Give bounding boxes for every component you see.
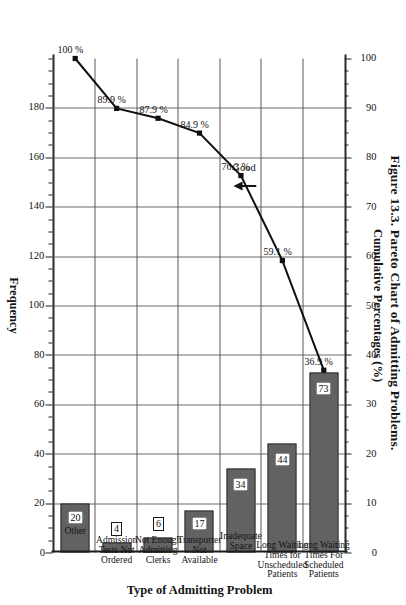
gridline-vertical [54, 256, 344, 257]
axis-tick-minor [48, 169, 52, 170]
category-axis-title: Type of Admitting Problem [99, 583, 299, 598]
gridline-horizontal [302, 58, 303, 552]
good-label: Good [232, 161, 255, 172]
gridline-vertical [54, 157, 344, 158]
axis-tick-minor [48, 342, 52, 343]
bar-value-label: 20 [67, 510, 83, 524]
axis-tick-minor [48, 466, 52, 467]
axis-tick-minor [48, 58, 52, 59]
axis-tick-label: 20 [34, 497, 45, 508]
axis-tick-major [45, 305, 52, 306]
axis-tick-label: 0 [371, 547, 376, 558]
pareto-plot-area: 734434176420 36.9 %59.1 %76.3 %84.9 %87.… [54, 58, 344, 552]
cumulative-value-label: 89.9 % [97, 94, 125, 104]
axis-tick-label: 100 [360, 53, 376, 64]
figure-caption: Figure 13.3. Pareto Chart of Admitting P… [386, 0, 402, 605]
axis-tick-minor [48, 429, 52, 430]
axis-tick-minor [48, 231, 52, 232]
frequency-axis-title: Frequency [5, 58, 20, 552]
gridline-vertical [54, 107, 344, 108]
axis-tick-minor [48, 280, 52, 281]
axis-tick-label: 40 [34, 448, 45, 459]
right-arrow-icon [232, 180, 256, 191]
axis-tick-label: 70 [366, 201, 377, 212]
gridline-vertical [54, 206, 344, 207]
figure-canvas: Figure 13.3. Pareto Chart of Admitting P… [0, 0, 406, 605]
axis-tick-minor [48, 379, 52, 380]
plot-border-bottom [52, 54, 54, 552]
axis-tick-major [45, 503, 52, 504]
plot-border-top [344, 54, 346, 552]
axis-tick-minor [48, 416, 52, 417]
axis-tick-label: 140 [28, 201, 44, 212]
axis-tick-major [45, 354, 52, 355]
axis-tick-minor [48, 391, 52, 392]
axis-tick-label: 50 [366, 300, 377, 311]
axis-tick-label: 180 [28, 102, 44, 113]
axis-tick-label: 120 [28, 250, 44, 261]
axis-tick-minor [48, 330, 52, 331]
bar-value-label: 17 [191, 516, 207, 530]
axis-tick-label: 80 [34, 349, 45, 360]
axis-tick-major [45, 206, 52, 207]
axis-tick-label: 20 [366, 448, 377, 459]
axis-tick-minor [48, 367, 52, 368]
category-label-line: Other [40, 526, 110, 536]
gridline-horizontal [219, 58, 220, 552]
cumulative-value-label: 84.9 % [180, 119, 208, 129]
axis-tick-minor [48, 268, 52, 269]
axis-tick-minor [48, 70, 52, 71]
category-label-line: Times for [247, 550, 317, 560]
gridline-horizontal [136, 58, 137, 552]
axis-tick-minor [48, 182, 52, 183]
bar [309, 372, 338, 552]
axis-tick-minor [48, 219, 52, 220]
cumulative-value-label: 36.9 % [304, 356, 332, 366]
category-label: Other [40, 526, 110, 536]
category-label-line: Tests Not [81, 545, 151, 555]
category-label-line: Ordered [81, 555, 151, 565]
axis-tick-label: 30 [366, 398, 377, 409]
gridline-vertical [54, 453, 344, 454]
axis-tick-minor [48, 243, 52, 244]
axis-tick-label: 0 [39, 547, 44, 558]
axis-tick-minor [48, 515, 52, 516]
bar-value-label: 73 [315, 381, 331, 395]
axis-tick-label: 40 [366, 349, 377, 360]
axis-tick-label: 90 [366, 102, 377, 113]
category-label: AdmissionTests NotOrdered [81, 536, 151, 565]
bar-value-label: 34 [232, 477, 248, 491]
axis-tick-minor [48, 478, 52, 479]
axis-tick-major [45, 107, 52, 108]
frequency-axis-ticks [45, 58, 52, 552]
axis-tick-minor [48, 194, 52, 195]
axis-tick-major [45, 157, 52, 158]
gridline-vertical [54, 503, 344, 504]
figure-page: Figure 13.3. Pareto Chart of Admitting P… [0, 0, 406, 605]
axis-tick-minor [48, 441, 52, 442]
axis-tick-minor [48, 490, 52, 491]
category-label-line: Admission [81, 536, 151, 546]
gridline-horizontal [94, 58, 95, 552]
axis-tick-minor [48, 83, 52, 84]
gridline-vertical [54, 404, 344, 405]
cumulative-value-label: 100 % [57, 44, 83, 54]
axis-tick-major [45, 256, 52, 257]
axis-tick-minor [48, 132, 52, 133]
gridline-horizontal [177, 58, 178, 552]
gridline-vertical [54, 354, 344, 355]
axis-tick-label: 60 [34, 398, 45, 409]
axis-tick-label: 10 [366, 497, 377, 508]
axis-tick-label: 60 [366, 250, 377, 261]
axis-tick-minor [48, 293, 52, 294]
axis-tick-major [45, 453, 52, 454]
cumulative-value-label: 87.9 % [139, 104, 167, 114]
cumulative-value-label: 59.1 % [263, 246, 291, 256]
axis-tick-label: 100 [28, 300, 44, 311]
bar-value-label: 6 [152, 516, 163, 530]
axis-tick-minor [48, 144, 52, 145]
good-direction-annotation: Good [232, 155, 256, 191]
axis-tick-minor [48, 317, 52, 318]
gridline-horizontal [260, 58, 261, 552]
axis-tick-minor [48, 540, 52, 541]
